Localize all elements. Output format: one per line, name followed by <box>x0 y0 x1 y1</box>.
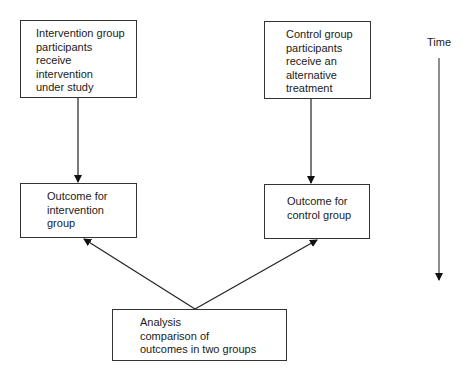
arrow-analysis-to-intervention-outcome <box>84 239 195 309</box>
control-group-box: Control group participants receive an al… <box>264 21 371 99</box>
time-axis-label: Time <box>427 36 451 48</box>
outcome-control-box: Outcome for control group <box>264 184 370 239</box>
analysis-label: Analysis comparison of outcomes in two g… <box>140 316 256 357</box>
intervention-group-box: Intervention group participants receive … <box>20 20 137 98</box>
outcome-intervention-label: Outcome for intervention group <box>47 190 108 231</box>
arrow-analysis-to-control-outcome <box>195 240 317 309</box>
outcome-intervention-box: Outcome for intervention group <box>20 183 137 238</box>
analysis-box: Analysis comparison of outcomes in two g… <box>112 309 287 361</box>
control-group-label: Control group participants receive an al… <box>286 28 353 96</box>
outcome-control-label: Outcome for control group <box>287 195 351 222</box>
intervention-group-label: Intervention group participants receive … <box>36 27 125 95</box>
